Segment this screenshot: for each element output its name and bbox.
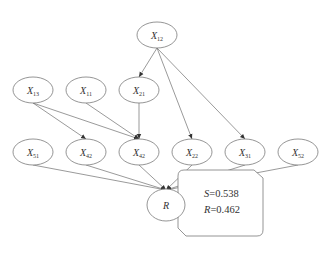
edge-x12-to-x31 xyxy=(157,48,245,139)
result-box: S=0.538 R=0.462 xyxy=(178,170,263,236)
result-line-r: R=0.462 xyxy=(203,204,240,215)
node-x42a: X42 xyxy=(66,139,106,165)
edge-x51-to-r xyxy=(33,165,166,190)
node-x21: X21 xyxy=(119,77,159,103)
edge-x11-to-x42b xyxy=(86,103,139,139)
edge-x13-to-x42a xyxy=(33,103,86,139)
node-x11: X11 xyxy=(66,77,106,103)
edge-x12-to-x22 xyxy=(157,48,192,139)
result-line-s: S=0.538 xyxy=(204,188,239,199)
nodes: X12X13X11X21X51X42X42X22X31X52R xyxy=(13,22,318,221)
node-x22: X22 xyxy=(172,139,212,165)
node-label: R xyxy=(162,200,169,211)
bayesian-network-diagram: S=0.538 R=0.462 X12X13X11X21X51X42X42X22… xyxy=(0,0,336,257)
node-x52: X52 xyxy=(278,139,318,165)
edge-x13-to-x42b xyxy=(33,103,139,139)
edge-x42b-to-r xyxy=(139,165,166,190)
node-x31: X31 xyxy=(225,139,265,165)
node-x13: X13 xyxy=(13,77,53,103)
node-x12: X12 xyxy=(137,22,177,48)
node-x42b: X42 xyxy=(119,139,159,165)
node-x51: X51 xyxy=(13,139,53,165)
edges xyxy=(33,48,298,190)
edge-x12-to-x21 xyxy=(139,48,157,77)
node-r: R xyxy=(147,189,185,221)
